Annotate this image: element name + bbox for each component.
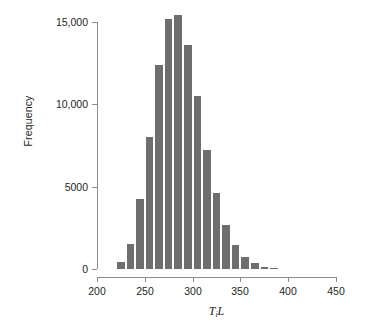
histogram-bar [154,65,164,269]
histogram-bar [193,96,203,269]
x-tick-mark-200 [97,277,98,282]
histogram-figure: Frequency 0500010,00015,000 200250300350… [0,0,366,330]
histogram-bar [212,193,222,269]
histogram-bar [145,137,155,269]
histogram-bar [221,225,231,269]
x-tick-mark-400 [288,277,289,282]
x-axis-label: TiL [97,304,336,319]
x-tick-mark-350 [240,277,241,282]
y-tick-label: 10,000 [26,99,88,109]
histogram-bar [202,150,212,269]
y-tick-label: 15,000 [26,17,88,27]
x-tick-mark-300 [193,277,194,282]
histogram-bar [240,257,250,269]
x-tick-label: 450 [306,285,366,297]
histogram-bar [260,267,270,269]
x-tick-mark-450 [336,277,337,282]
x-axis-line [97,277,336,278]
y-tick-label: 5000 [26,182,88,192]
histogram-bar [231,245,241,269]
histogram-bar [250,263,260,269]
y-tick-10,000: 10,000 [0,104,97,105]
y-tick-0: 0 [0,269,97,270]
histogram-bar [173,15,183,269]
plot-area [97,10,336,269]
histogram-bar [269,268,279,269]
y-tick-5000: 5000 [0,187,97,188]
x-axis-label-subscript: i [215,310,217,319]
y-axis-label: Frequency [22,66,34,176]
y-tick-mark [92,269,97,270]
y-tick-15,000: 15,000 [0,22,97,23]
histogram-bar [135,199,145,269]
histogram-bar [116,262,126,269]
histogram-bar [164,19,174,269]
histogram-bar [183,45,193,269]
y-tick-label: 0 [26,264,88,274]
x-tick-mark-250 [145,277,146,282]
x-axis-label-symbol2: L [218,304,225,318]
histogram-bar [126,244,136,269]
